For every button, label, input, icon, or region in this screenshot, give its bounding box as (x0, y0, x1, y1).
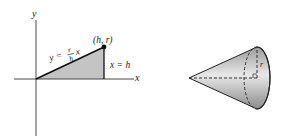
equation-rhs: x (74, 46, 82, 57)
point-h-r (102, 45, 107, 50)
x-axis-label: x (134, 72, 140, 83)
vertical-line-label: x = h (109, 60, 130, 70)
cone-figure: r (189, 47, 270, 109)
point-label: (h, r) (93, 35, 113, 46)
cone-volume-diagram: y x (h, r) x = h y = r h x r (0, 0, 282, 136)
equation-denominator: h (68, 54, 74, 64)
y-axis-label: y (31, 8, 37, 19)
equation-lhs: y = (47, 50, 63, 63)
coordinate-graph: y x (h, r) x = h y = r h x (14, 8, 140, 136)
